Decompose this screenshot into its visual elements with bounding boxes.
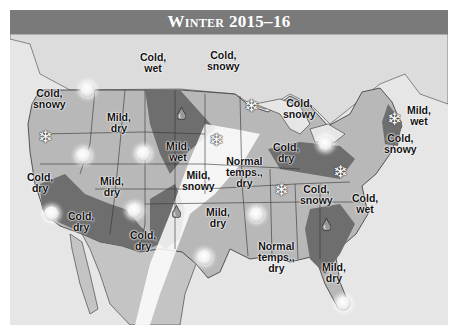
- sun-icon: [318, 136, 333, 151]
- region-label-gulf-coast: Normaltemps.,dry: [258, 241, 295, 274]
- snowflake-icon: ❄: [207, 131, 225, 149]
- region-label-idaho-montana: Mild,dry: [107, 112, 131, 134]
- region-label-pacific-nw: Cold,snowy: [33, 88, 66, 110]
- region-label-california: Cold,dry: [27, 172, 53, 194]
- region-label-texas: Mild,dry: [206, 207, 230, 229]
- sun-icon: [127, 203, 142, 218]
- snowflake-icon: ❄: [36, 128, 54, 146]
- region-label-carolinas: Cold,wet: [352, 193, 378, 215]
- region-label-great-lakes: Cold,snowy: [283, 98, 316, 120]
- sun-icon: [76, 148, 91, 163]
- sun-icon: [44, 206, 59, 221]
- sun-icon: [197, 250, 212, 265]
- raindrop-icon: [172, 205, 181, 218]
- snowflake-icon: ❄: [385, 110, 403, 128]
- snowflake-icon: ❄: [242, 97, 260, 115]
- region-label-mid-atlantic: Cold,snowy: [384, 133, 417, 155]
- region-label-great-basin: Mild,dry: [100, 176, 124, 198]
- region-label-northern-rockies: Cold,wet: [140, 52, 166, 74]
- region-label-central-plains: Mild,wet: [166, 141, 190, 163]
- raindrop-icon: [322, 218, 331, 231]
- snowflake-icon: ❄: [272, 181, 290, 199]
- region-label-new-mexico: Cold,dry: [130, 230, 156, 252]
- region-label-missouri: Normaltemps.,dry: [226, 156, 263, 189]
- sun-icon: [80, 82, 95, 97]
- region-label-kansas: Mild,snowy: [182, 170, 215, 192]
- sun-icon: [249, 207, 264, 222]
- title-bar: Winter 2015–16: [10, 10, 448, 34]
- raindrop-icon: [177, 107, 186, 120]
- snowflake-icon: ❄: [331, 163, 349, 181]
- sun-icon: [136, 146, 151, 161]
- region-label-new-england: Mild,wet: [407, 105, 431, 127]
- map-title: Winter 2015–16: [168, 12, 291, 32]
- region-label-florida: Mild,dry: [322, 262, 346, 284]
- region-label-tennessee: Cold,snowy: [300, 184, 333, 206]
- sun-icon: [336, 296, 351, 311]
- region-label-upper-midwest: Cold,snowy: [207, 50, 240, 72]
- region-label-ohio-valley: Cold,dry: [273, 142, 299, 164]
- region-label-southwest: Cold,dry: [68, 211, 94, 233]
